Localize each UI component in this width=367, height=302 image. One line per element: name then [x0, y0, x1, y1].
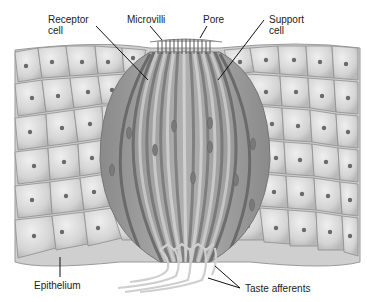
label-taste-afferents: Taste afferents [245, 283, 310, 294]
taste-bud-diagram [0, 0, 367, 302]
label-receptor-cell: Receptor cell [48, 14, 89, 36]
label-epithelium: Epithelium [34, 280, 81, 291]
label-pore: Pore [203, 14, 224, 25]
label-support-cell: Support cell [269, 14, 304, 36]
taste-bud [100, 39, 270, 262]
label-microvilli: Microvilli [127, 14, 165, 25]
